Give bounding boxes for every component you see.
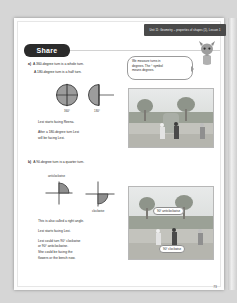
whole-turn-degree-label: 360° [54,109,80,113]
unit-banner: Unit 11: Geometry – properties of shapes… [144,24,226,36]
teacher-speech-bubble: We measure turns in degrees. The ° symbo… [127,56,193,80]
tree-left-icon [137,99,153,121]
share-section-tab: Share [24,44,70,57]
whole-turn-circle-diagram [54,82,80,108]
part-b-label: b) [28,160,31,164]
part-a-statement-2: A 180-degree turn is a half turn. [34,70,124,75]
clockwise-diagram-label: clockwise [92,209,104,213]
anticlockwise-diagram-label: anticlockwise [48,174,65,178]
part-a-text-3: will be facing Lexi. [38,136,124,142]
part-a-statement-1-text: A 360-degree turn is a whole turn. [33,62,84,66]
person-bystander [199,123,205,139]
book-gutter [228,18,237,290]
park-photo-top [128,88,214,148]
half-turn-circle-diagram [86,82,116,108]
person2-lexi [155,229,161,245]
share-section-label: Share [37,47,58,54]
mascot-character-icon [196,40,218,66]
part-a-text-block: a)A 360-degree turn is a whole turn. A 1… [28,62,124,78]
part-b-text-2: Lexi starts facing Lexi. [38,229,126,235]
part-b-statement-1: b)A 90-degree turn is a quarter turn. [28,160,124,165]
part-b-text-6: flowers or the bench now. [38,256,126,262]
part-b-explanation: This is also called a right angle. Lexi … [38,219,126,262]
page-root: Unit 11: Geometry – properties of shapes… [0,0,237,303]
part-b-text-block: b)A 90-degree turn is a quarter turn. [28,160,124,168]
part-a-text-1: Lexi starts facing Reena. [38,120,124,126]
part-a-explanation: Lexi starts facing Reena. After a 180-de… [38,120,124,141]
part-b-text-1: This is also called a right angle. [38,219,126,225]
quarter-turn-clockwise-diagram [84,180,116,210]
tree-right-icon [177,97,195,121]
part-b-statement-1-text: A 90-degree turn is a quarter turn. [33,160,84,164]
person-reena [173,122,179,139]
bubble-line-3: means degrees. [132,68,188,73]
tag-clockwise: 90° clockwise [159,245,185,253]
tag-anticlockwise: 90° anticlockwise [153,207,184,215]
park-photo-bottom: 90° anticlockwise 90° clockwise [128,186,214,260]
person2-bystander [197,229,203,245]
part-a-label: a) [28,62,31,66]
half-turn-degree-label: 180° [84,109,110,113]
page-number: 73 [213,285,217,289]
person-lexi [159,123,165,139]
part-a-statement-1: a)A 360-degree turn is a whole turn. [28,62,124,67]
unit-banner-text: Unit 11: Geometry – properties of shapes… [149,29,220,32]
quarter-turn-anticlockwise-diagram [44,180,74,206]
person2-reena [171,228,177,245]
